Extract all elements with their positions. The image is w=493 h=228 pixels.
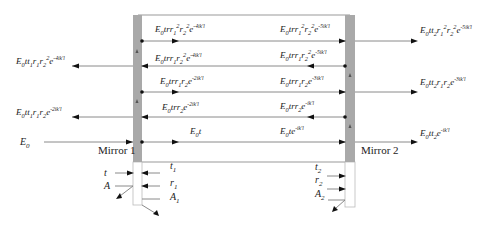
- coef-A1-diag: [142, 205, 155, 213]
- mirror-2-extension: [345, 162, 355, 207]
- mirror-1: [133, 15, 142, 162]
- cavity-backward-label: E0trr2e-2ik'l: [161, 101, 199, 114]
- labels-group: E0E0trr12r22e-4ik'lE0trr1r2e-2ik'lE0tE0t…: [15, 22, 472, 205]
- mirror-1-label: Mirror 1: [98, 144, 136, 156]
- reflection-point: [343, 64, 347, 68]
- arrowhead-icon: [307, 115, 314, 120]
- coef-A2-diag: [336, 200, 345, 208]
- coef-A2: A2: [314, 188, 325, 202]
- reflection-point: [140, 90, 144, 94]
- coef-A: A: [103, 180, 111, 191]
- cavity-forward-label: E0t: [189, 126, 202, 138]
- mirror-2: [345, 15, 355, 162]
- absorption-arrow-icon: [153, 210, 159, 216]
- coef-r1: r1: [170, 177, 177, 191]
- coef-A-diag: [120, 186, 133, 196]
- cavity-mirror2-label: E0trr2e-ik'l: [279, 100, 314, 113]
- cavity-mirror2-label: E0trr1r2e-3ik'l: [279, 75, 324, 88]
- transmitted-output-label: E0tt2e-ik'l: [419, 127, 450, 140]
- coef-t2: t2: [315, 161, 322, 175]
- arrowhead-icon: [172, 90, 179, 95]
- reflection-point: [140, 39, 144, 43]
- arrowhead-icon: [141, 64, 148, 69]
- reflected-output-label: E0tt1r1r2e-2ik'l: [15, 106, 62, 119]
- cavity-backward-label: E0trr1r22e-4ik'l: [154, 51, 202, 65]
- mirror-1-extension: [133, 162, 142, 205]
- reflection-point: [343, 115, 347, 119]
- reflected-output-label: E0tt1r1r22e-4ik'l: [15, 54, 65, 68]
- arrowhead-icon: [339, 90, 346, 95]
- arrowhead-icon: [72, 115, 79, 120]
- cavity-mirror2-label: E0trr1r22e-5ik'l: [279, 48, 327, 62]
- transmitted-output-label: E0tt2r12r22e-5ik'l: [419, 23, 472, 37]
- cavity-forward-label: E0trr12r22e-4ik'l: [154, 22, 205, 36]
- reflection-point: [140, 140, 144, 144]
- arrowhead-icon: [72, 64, 79, 69]
- arrowhead-icon: [307, 64, 314, 69]
- rays-group: [44, 39, 418, 217]
- arrowhead-icon: [172, 39, 179, 44]
- mirror-2-label: Mirror 2: [361, 144, 399, 156]
- arrowhead-icon: [411, 140, 418, 145]
- cavity-mirror2-label: E0te-ik'l: [279, 125, 304, 138]
- cavity-mirror2-label: E0trr12r22e-5ik'l: [279, 22, 330, 36]
- arrowhead-icon: [411, 39, 418, 44]
- arrowhead-icon: [411, 90, 418, 95]
- arrowhead-icon: [339, 39, 346, 44]
- coef-A1: A1: [169, 191, 180, 205]
- arrowhead-icon: [339, 140, 346, 145]
- coef-r2: r2: [315, 174, 323, 188]
- arrowhead-icon: [141, 115, 148, 120]
- cavity-forward-label: E0trr1r2e-2ik'l: [159, 75, 204, 88]
- coef-t: t: [104, 167, 107, 178]
- arrowhead-icon: [172, 140, 179, 145]
- absorption-arrow-icon: [116, 193, 122, 199]
- input-field-label: E0: [19, 136, 30, 150]
- transmitted-output-label: E0tt2r1r2e-3ik'l: [419, 76, 466, 89]
- mirror-cavity-diagram: E0E0trr12r22e-4ik'lE0trr1r2e-2ik'lE0tE0t…: [0, 0, 493, 228]
